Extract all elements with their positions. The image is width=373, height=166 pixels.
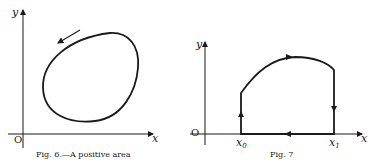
closed-region-boundary xyxy=(241,57,334,134)
arrow-left-icon xyxy=(284,131,291,137)
y-axis-label: y xyxy=(11,6,19,19)
tick-label-x1: x1 xyxy=(329,136,340,150)
arrow-down-icon xyxy=(331,106,337,112)
x-axis-label: x xyxy=(361,132,368,145)
origin-label: O xyxy=(191,127,199,138)
arrow-right-icon xyxy=(286,54,293,60)
tick-label-x0: x0 xyxy=(236,136,247,150)
figure-7: y x O x0 x1 Fig. 7 xyxy=(190,38,368,159)
figure-6: y x O Fig. 6.—A positive area xyxy=(8,6,159,159)
y-axis-label: y xyxy=(195,38,203,51)
x-axis-label: x xyxy=(152,132,159,145)
direction-arrow-icon xyxy=(58,30,80,43)
figure-canvas: y x O Fig. 6.—A positive area y x O x0 x… xyxy=(0,0,373,166)
figure-caption: Fig. 7 xyxy=(270,150,293,159)
closed-curve xyxy=(43,33,138,122)
origin-label: O xyxy=(14,134,22,145)
figure-caption: Fig. 6.—A positive area xyxy=(36,150,131,159)
arrow-up-icon xyxy=(238,111,244,117)
